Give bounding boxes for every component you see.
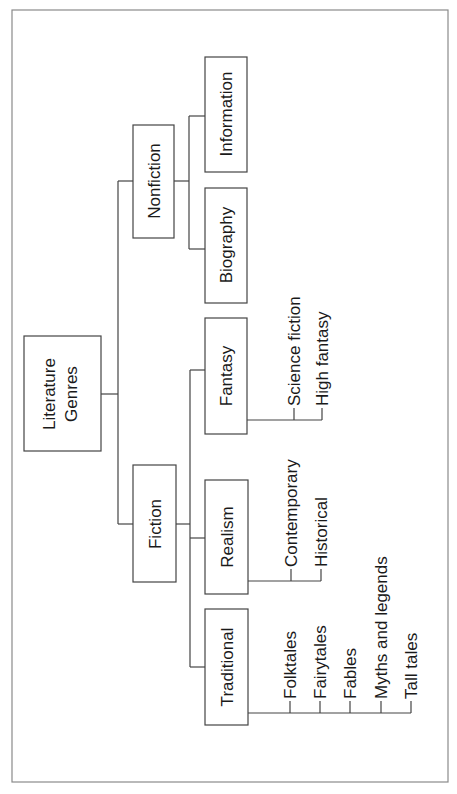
leaf-tall-tales: Tall tales xyxy=(402,633,421,699)
literature-genres-diagram: Literature Genres Nonfiction Information… xyxy=(0,0,457,794)
category-fiction: Fiction xyxy=(133,465,176,582)
realism-label: Realism xyxy=(218,506,237,567)
biography-label: Biography xyxy=(217,206,236,283)
leaf-folktales: Folktales xyxy=(281,631,300,699)
subcategory-fantasy: Fantasy xyxy=(205,318,247,434)
leaf-science-fiction: Science fiction xyxy=(285,296,304,406)
leaf-high-fantasy: High fantasy xyxy=(313,311,332,406)
category-nonfiction: Nonfiction xyxy=(133,125,174,238)
leaf-fables: Fables xyxy=(341,648,360,699)
root-label-line-1: Literature xyxy=(40,358,59,430)
root-label-line-2: Genres xyxy=(62,366,81,422)
traditional-label: Traditional xyxy=(218,628,237,707)
subcategory-biography: Biography xyxy=(205,188,247,303)
subcategory-traditional: Traditional xyxy=(205,609,248,725)
leaf-fairytales: Fairytales xyxy=(311,625,330,699)
information-label: Information xyxy=(217,71,236,156)
subcategory-realism: Realism xyxy=(205,480,248,594)
fantasy-label: Fantasy xyxy=(217,345,236,406)
leaf-myths-and-legends: Myths and legends xyxy=(372,556,391,699)
subcategory-information: Information xyxy=(205,57,247,172)
nonfiction-label: Nonfiction xyxy=(145,143,164,219)
leaf-historical: Historical xyxy=(312,497,331,567)
root-node: Literature Genres xyxy=(24,336,101,451)
leaf-contemporary: Contemporary xyxy=(282,459,301,567)
fiction-label: Fiction xyxy=(146,499,165,549)
